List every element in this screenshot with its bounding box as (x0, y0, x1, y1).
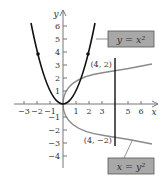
y-tick-label: −2 (48, 126, 60, 135)
equation-label-x-equals-y-squared: x = y² (117, 161, 146, 172)
y-tick-label: 3 (55, 61, 60, 70)
x-axis-label: x (151, 107, 156, 117)
equation-label-y-equals-x-squared: y = x² (116, 34, 146, 45)
y-axis-label: y (52, 9, 59, 19)
x-tick-label: 1 (73, 107, 78, 116)
x-tick-label: −2 (31, 107, 43, 116)
point-marker (86, 52, 90, 56)
y-tick-label: 2 (55, 74, 60, 83)
y-tick-label: −3 (48, 139, 60, 148)
x-tick-label: −3 (18, 107, 30, 116)
y-tick-label: 6 (55, 22, 60, 31)
curve-x-equals-y-squared (63, 64, 152, 104)
y-ticks (63, 26, 67, 156)
x-tick-label: 5 (125, 107, 130, 116)
graph-figure: −3 −2 −1 1 2 3 5 6 x 6 5 4 3 2 1 −1 −2 −… (0, 0, 168, 188)
x-tick-label: 3 (99, 107, 104, 116)
y-tick-label: 5 (55, 35, 60, 44)
y-tick-label: −4 (48, 152, 60, 161)
point-label-4-2: (4, 2) (90, 60, 112, 69)
x-tick-label: 6 (138, 107, 143, 116)
point-label-4-neg2: (4, −2) (84, 136, 112, 145)
leader-line (124, 141, 132, 158)
y-tick-label: 1 (55, 87, 60, 96)
y-tick-label: −1 (48, 113, 60, 122)
x-tick-label: 2 (86, 107, 91, 116)
point-marker (36, 52, 40, 56)
y-tick-label: 4 (55, 48, 60, 57)
